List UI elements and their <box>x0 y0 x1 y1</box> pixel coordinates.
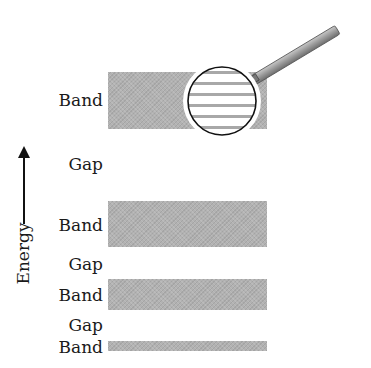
magnifier-icon <box>0 0 371 368</box>
energy-band-diagram: Band Gap Band Gap Band Gap Band Energy <box>0 0 371 368</box>
